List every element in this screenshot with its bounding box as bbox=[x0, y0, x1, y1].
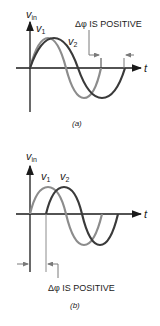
y-axis-label-b: vin bbox=[26, 150, 37, 163]
curve-v2-b bbox=[46, 187, 118, 245]
curve1-label-a: v1 bbox=[36, 22, 46, 35]
annotation-a: Δφ IS POSITIVE bbox=[75, 19, 142, 29]
curve2-label-b: v2 bbox=[60, 170, 70, 183]
figure-b: vin t v1 v2 Δφ IS POSITIVE (b) bbox=[16, 150, 148, 310]
caption-a: (a) bbox=[72, 119, 82, 128]
caption-b: (b) bbox=[70, 301, 80, 310]
x-axis-label-b: t bbox=[144, 208, 148, 220]
curve-v1-b bbox=[30, 187, 102, 245]
curve1-label-b: v1 bbox=[41, 170, 51, 183]
y-axis-label-a: vin bbox=[26, 8, 37, 21]
leader-b bbox=[48, 264, 58, 278]
annotation-b: Δφ IS POSITIVE bbox=[48, 283, 115, 293]
curve2-label-a: v2 bbox=[68, 35, 78, 48]
phase-diagram: vin t v1 v2 Δφ IS POSITIVE (a) vin t v1 … bbox=[0, 0, 160, 326]
x-axis-label-a: t bbox=[144, 62, 148, 74]
figure-a: vin t v1 v2 Δφ IS POSITIVE (a) bbox=[16, 8, 148, 128]
leader-a bbox=[89, 30, 99, 55]
